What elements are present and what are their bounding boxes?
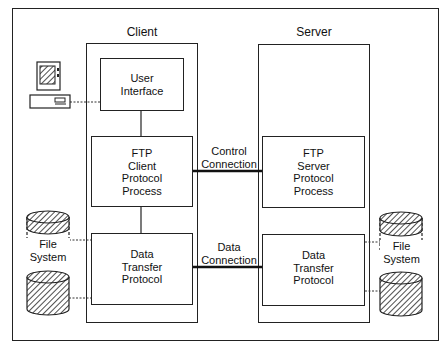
server-pp-line1: FTP <box>263 147 364 160</box>
client-disk-bottom-icon <box>27 271 69 315</box>
data-label-line1: Data <box>200 241 258 254</box>
control-connection-label: Control Connection <box>200 145 258 170</box>
server-dt-line2: Transfer <box>263 262 364 275</box>
computer-terminal-icon <box>30 62 70 108</box>
client-protocol-process-box: FTP Client Protocol Process <box>91 136 193 207</box>
server-dt-line1: Data <box>263 249 364 262</box>
client-file-system-label: File System <box>26 238 70 263</box>
server-disk-bottom-icon <box>380 272 422 316</box>
client-pp-line2: Client <box>92 160 192 173</box>
server-pp-line4: Process <box>263 185 364 198</box>
client-data-transfer-box: Data Transfer Protocol <box>91 233 193 305</box>
control-label-line2: Connection <box>200 158 258 171</box>
server-fs-line1: File <box>380 240 423 253</box>
client-dt-line1: Data <box>92 248 192 261</box>
user-interface-line1: User <box>101 72 183 85</box>
user-interface-line2: Interface <box>101 85 183 98</box>
server-data-transfer-box: Data Transfer Protocol <box>262 234 365 306</box>
data-label-line2: Connection <box>200 254 258 267</box>
connectors-layer <box>0 0 445 350</box>
client-fs-line2: System <box>26 251 70 264</box>
server-fs-line2: System <box>380 253 423 266</box>
client-pp-line1: FTP <box>92 147 192 160</box>
client-pp-line4: Process <box>92 185 192 198</box>
client-dt-line3: Protocol <box>92 273 192 286</box>
data-connection-label: Data Connection <box>200 241 258 266</box>
server-pp-line2: Server <box>263 160 364 173</box>
server-file-system-label: File System <box>380 240 423 265</box>
server-pp-line3: Protocol <box>263 172 364 185</box>
server-dt-line3: Protocol <box>263 274 364 287</box>
client-fs-line1: File <box>26 238 70 251</box>
client-user-interface-box: User Interface <box>100 58 184 111</box>
client-pp-line3: Protocol <box>92 172 192 185</box>
control-label-line1: Control <box>200 145 258 158</box>
client-dt-line2: Transfer <box>92 261 192 274</box>
server-protocol-process-box: FTP Server Protocol Process <box>262 136 365 208</box>
